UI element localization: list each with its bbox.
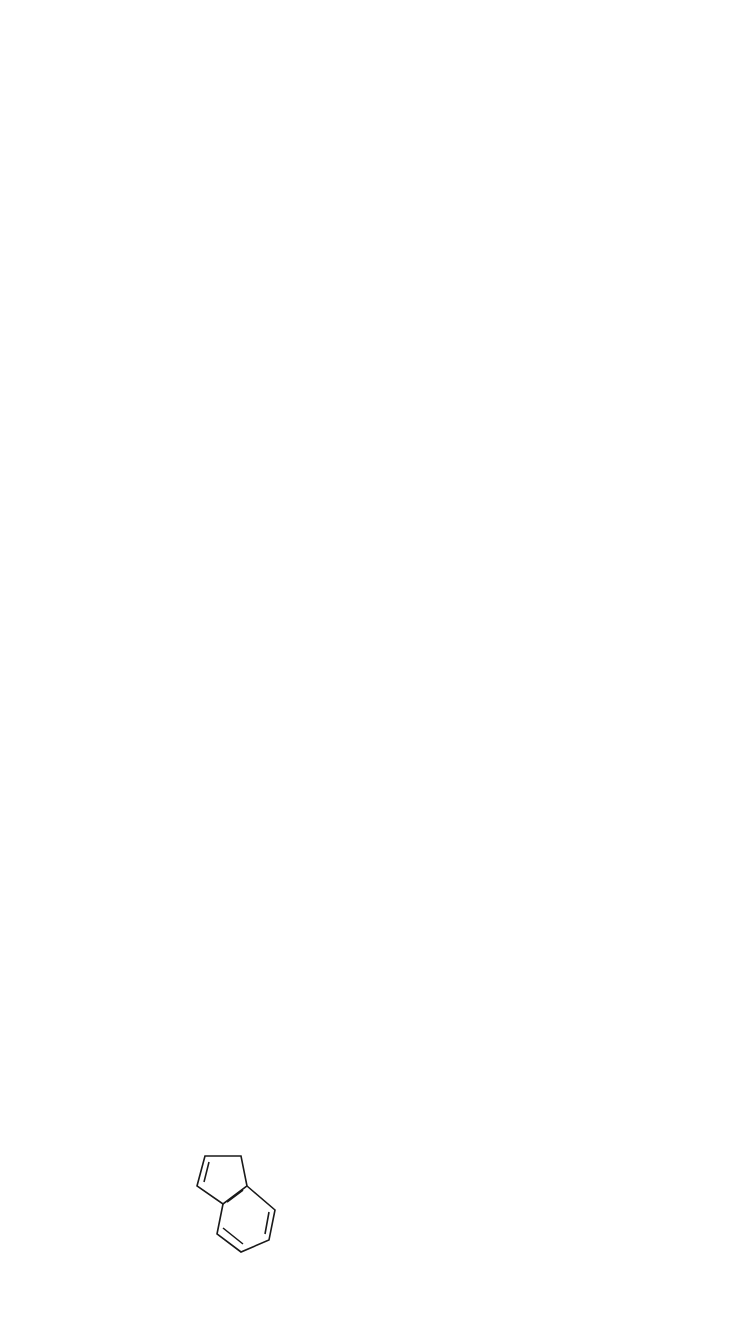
indole-nmt xyxy=(197,1156,275,1252)
structures-svg xyxy=(0,0,735,1321)
metabolic-pathway-diagram xyxy=(0,0,735,1321)
